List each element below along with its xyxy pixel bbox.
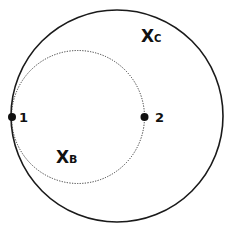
xc-label: XC (141, 26, 161, 46)
inner-circle-xb (12, 51, 145, 184)
xc-label-sub: C (154, 33, 161, 44)
venn-diagram: 1 2 XC XB (0, 0, 229, 237)
point-1-label: 1 (19, 110, 28, 125)
xb-label: XB (56, 147, 78, 167)
xb-label-sub: B (69, 153, 77, 166)
outer-circle-xc (11, 10, 223, 222)
point-1-marker (8, 113, 16, 121)
point-2-marker (141, 113, 149, 121)
point-2-label: 2 (155, 110, 164, 125)
xc-label-main: X (141, 26, 154, 46)
xb-label-main: X (56, 147, 69, 167)
